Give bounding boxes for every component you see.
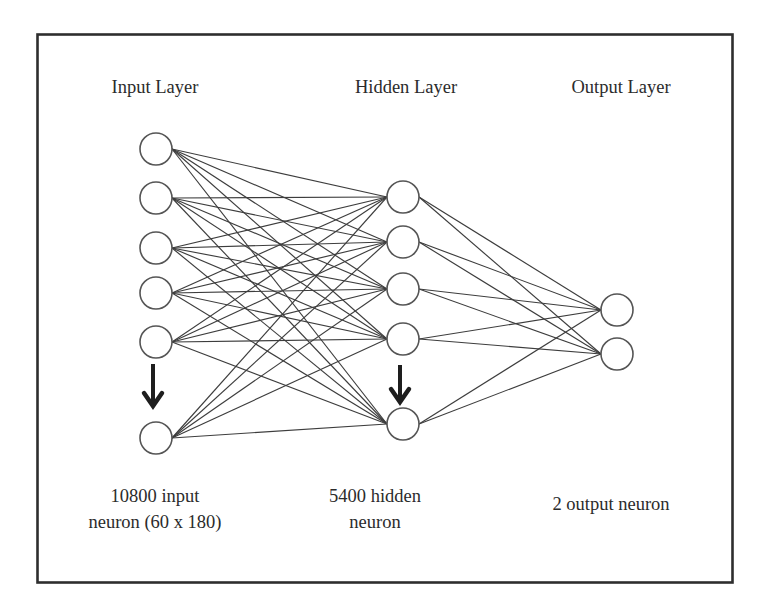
input-neuron — [140, 422, 172, 454]
hidden-neuron — [387, 273, 419, 305]
hidden-layer-caption-line2: neuron — [349, 512, 400, 532]
connection-line — [172, 248, 387, 339]
connection-line — [419, 197, 601, 310]
output-neuron — [601, 338, 633, 370]
input-layer-title: Input Layer — [112, 77, 199, 97]
hidden-neuron — [387, 181, 419, 213]
input-hidden-connections — [172, 149, 387, 438]
hidden-neuron — [387, 226, 419, 258]
output-layer-caption: 2 output neuron — [552, 494, 669, 514]
input-neuron — [140, 133, 172, 165]
connection-line — [172, 424, 387, 438]
connection-line — [172, 289, 387, 342]
input-neuron — [140, 232, 172, 264]
input-neuron — [140, 326, 172, 358]
down-arrow-icon — [391, 365, 409, 402]
connection-line — [419, 354, 601, 424]
input-layer-caption-line2: neuron (60 x 180) — [88, 512, 221, 533]
hidden-layer-caption-line1: 5400 hidden — [329, 486, 421, 506]
output-neuron — [601, 294, 633, 326]
connection-line — [419, 310, 601, 339]
connection-line — [172, 293, 387, 424]
connection-line — [172, 149, 387, 242]
neural-network-diagram: Input Layer Hidden Layer Output Layer 10… — [0, 0, 764, 614]
connection-line — [419, 310, 601, 424]
hidden-neuron — [387, 408, 419, 440]
down-arrow-icon — [144, 364, 162, 406]
connection-line — [419, 339, 601, 354]
input-neuron — [140, 277, 172, 309]
output-layer-nodes — [601, 294, 633, 370]
connection-line — [419, 289, 601, 354]
hidden-neuron — [387, 323, 419, 355]
hidden-layer-title: Hidden Layer — [355, 77, 457, 97]
connection-line — [172, 197, 387, 198]
input-neuron — [140, 182, 172, 214]
connection-line — [172, 248, 387, 424]
input-layer-caption-line1: 10800 input — [111, 486, 201, 506]
connection-line — [419, 242, 601, 354]
hidden-output-connections — [419, 197, 601, 424]
input-layer-nodes — [140, 133, 172, 454]
output-layer-title: Output Layer — [571, 77, 670, 97]
